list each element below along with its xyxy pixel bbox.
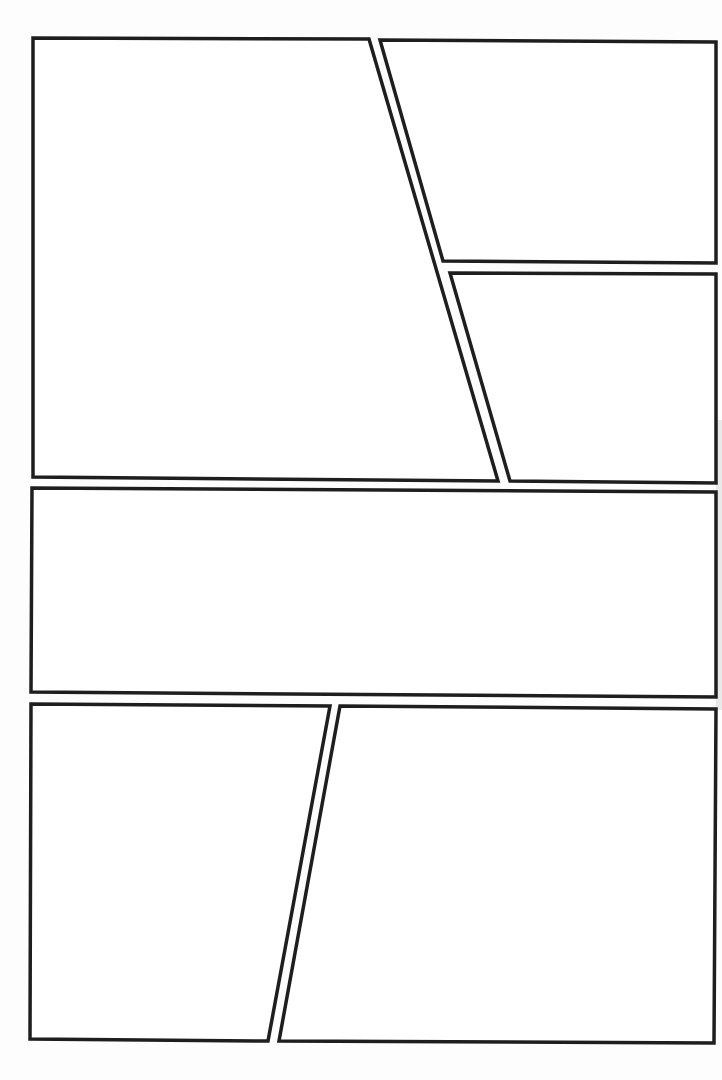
bottom-row [30, 704, 716, 1043]
panel-6[interactable] [279, 706, 716, 1043]
panel-2[interactable] [380, 40, 716, 263]
panel-4[interactable] [31, 488, 716, 697]
panel-layout [0, 0, 722, 1080]
top-row [33, 38, 716, 483]
panel-5[interactable] [30, 704, 330, 1041]
middle-row [31, 488, 716, 697]
comic-page [0, 0, 722, 1080]
